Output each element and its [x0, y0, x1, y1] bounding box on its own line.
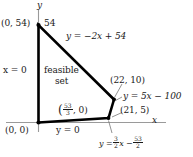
vertex-dot-0-54	[36, 23, 40, 27]
upper-rhs: −2x + 54	[84, 31, 126, 41]
figure-canvas: y 54 x (0, 54) (0, 0) (22, 10) (21, 5) (…	[0, 0, 193, 157]
x-intercept-rest: , 0)	[73, 105, 88, 115]
constraint-label-lower-right: y =32x −532	[99, 136, 143, 149]
vertex-label-0-0: (0, 0)	[5, 126, 29, 135]
y-tick-label-54: 54	[44, 19, 55, 28]
vertex-label-0-54: (0, 54)	[1, 19, 30, 28]
vertex-dot-0-0	[36, 120, 40, 124]
vertex-dot-22-10	[112, 98, 116, 102]
region-label-line2: set	[55, 77, 68, 86]
constraint-label-upper: y = −2x + 54	[66, 32, 126, 41]
x-axis-label: x	[152, 116, 157, 125]
lower-right-var: x	[119, 139, 123, 148]
right-eq: =	[131, 91, 138, 101]
constraint-label-right: y = 5x − 100	[123, 92, 181, 101]
region-label-line1: feasible	[44, 66, 79, 75]
lower-right-eq: =	[106, 139, 113, 148]
lower-right-slope-fraction: 32	[113, 136, 119, 149]
upper-eq: =	[74, 31, 81, 41]
vertex-dot-21-5	[107, 116, 111, 120]
upper-lhs: y	[66, 31, 71, 41]
constraint-label-y-eq-0: y = 0	[56, 126, 80, 135]
right-rhs: 5x − 100	[141, 91, 181, 101]
lower-right-minus: −	[126, 139, 133, 148]
right-lhs: y	[123, 91, 128, 101]
lower-right-intercept-fraction: 532	[133, 136, 142, 149]
x-intercept-fraction: 533	[63, 103, 72, 116]
leader-line-5x-100	[116, 97, 123, 101]
lower-right-lhs: y	[99, 139, 103, 148]
x-intercept-open-paren: (	[58, 104, 63, 116]
vertex-label-x-intercept: (533, 0)	[58, 103, 88, 116]
vertex-label-21-5: (21, 5)	[120, 106, 149, 115]
y-axis-label: y	[37, 1, 42, 10]
constraint-label-x-eq-0: x = 0	[3, 66, 27, 75]
vertex-label-22-10: (22, 10)	[110, 76, 145, 85]
leader-line-22-10	[115, 84, 123, 98]
